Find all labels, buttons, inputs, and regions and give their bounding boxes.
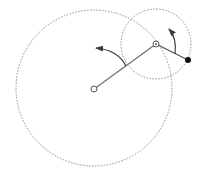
- end-effector: [185, 57, 191, 63]
- base-joint: [91, 86, 97, 92]
- link-2: [156, 44, 188, 60]
- rotation-arrow-2: [169, 29, 175, 54]
- link-1: [94, 44, 156, 89]
- two-link-arm-diagram: [0, 0, 201, 174]
- elbow-joint: [153, 41, 159, 47]
